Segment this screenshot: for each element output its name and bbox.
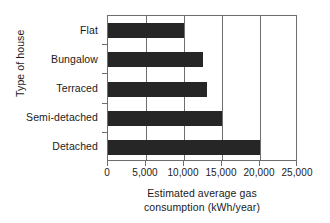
y-tick-label-detached: Detached: [52, 141, 98, 152]
bar-terraced: [108, 82, 207, 97]
x-axis-title: Estimated average gas consumption (kWh/y…: [107, 186, 297, 214]
x-axis-title-line-2: consumption (kWh/year): [107, 200, 297, 214]
x-tick-label-5000: 5,000: [132, 168, 158, 178]
x-tick-label-25000: 25,000: [281, 168, 312, 178]
x-tick-label-0: 0: [104, 168, 110, 178]
x-tick-mark-5000: [145, 161, 146, 166]
bar-detached: [108, 140, 260, 155]
x-tick-mark-0: [107, 161, 108, 166]
x-tick-mark-20000: [259, 161, 260, 166]
y-axis-tick-labels: FlatBungalowTerracedSemi-detachedDetache…: [0, 15, 103, 161]
bar-flat: [108, 23, 184, 38]
x-axis-tick-labels: 05,00010,00015,00020,00025,000: [107, 168, 297, 182]
x-axis-tick-marks: [107, 161, 297, 166]
y-tick-label-bungalow: Bungalow: [51, 54, 98, 65]
x-tick-label-10000: 10,000: [167, 168, 198, 178]
x-tick-label-20000: 20,000: [243, 168, 274, 178]
x-tick-label-15000: 15,000: [205, 168, 236, 178]
gridline-20000: [260, 16, 261, 160]
bar-chart: Type of house FlatBungalowTerracedSemi-d…: [0, 0, 330, 223]
y-tick-label-terraced: Terraced: [56, 83, 98, 94]
x-axis-title-line-1: Estimated average gas: [107, 186, 297, 200]
x-tick-mark-10000: [183, 161, 184, 166]
x-tick-mark-25000: [296, 161, 297, 166]
x-tick-mark-15000: [221, 161, 222, 166]
gridline-15000: [222, 16, 223, 160]
y-tick-label-flat: Flat: [80, 25, 98, 36]
bar-bungalow: [108, 52, 203, 67]
plot-area: [107, 15, 297, 161]
bar-semi-detached: [108, 111, 222, 126]
y-tick-label-semi-detached: Semi-detached: [26, 112, 98, 123]
